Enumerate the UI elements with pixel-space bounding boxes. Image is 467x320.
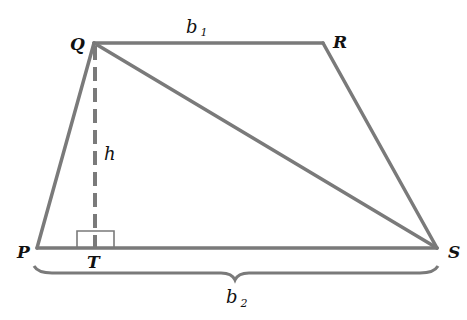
label-b1: b1: [186, 16, 208, 39]
label-h: h: [104, 143, 116, 164]
label-s: S: [448, 242, 460, 262]
diagonal-qs: [94, 43, 437, 248]
label-b2: b2: [226, 286, 248, 310]
label-t: T: [87, 252, 101, 272]
trapezoid-diagram: Q R P S T b1 h b2: [0, 0, 467, 320]
label-q: Q: [70, 34, 85, 54]
label-r: R: [332, 32, 347, 52]
label-p: P: [16, 242, 31, 262]
segment-pq: [37, 43, 94, 248]
segment-rs: [323, 43, 437, 248]
